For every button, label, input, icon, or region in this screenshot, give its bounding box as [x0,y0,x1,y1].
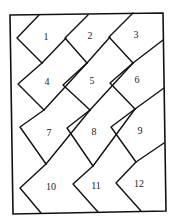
tile-label-8: 8 [92,126,97,137]
tile-label-3: 3 [134,29,139,40]
tile-edge [20,164,46,213]
tile-label-11: 11 [91,180,101,191]
tile-label-10: 10 [46,181,56,192]
tile-label-4: 4 [45,76,50,87]
tile-label-2: 2 [88,30,93,41]
tile-label-7: 7 [47,127,52,138]
tile-edge [90,63,133,110]
tile-edge [133,40,163,63]
tile-edge [109,13,133,63]
tile-edge [44,63,87,110]
chevron-tiling-diagram: 123456789101112 [0,0,173,221]
tile-label-5: 5 [90,75,95,86]
tile-label-6: 6 [135,74,140,85]
tile-edge [67,110,93,166]
tile-label-12: 12 [134,178,144,189]
tile-edge [110,63,135,109]
tile-label-1: 1 [44,31,49,42]
tile-edge [136,143,164,162]
tile-edge [65,15,88,63]
tile-edge [135,88,164,109]
tile-edge [17,15,42,63]
tile-edge [63,63,90,110]
tile-edge [93,109,135,166]
tile-label-9: 9 [138,125,143,136]
tile-edge [18,63,44,110]
tile-edge [20,110,46,164]
tile-labels: 123456789101112 [44,29,145,192]
tile-edge [46,110,90,164]
